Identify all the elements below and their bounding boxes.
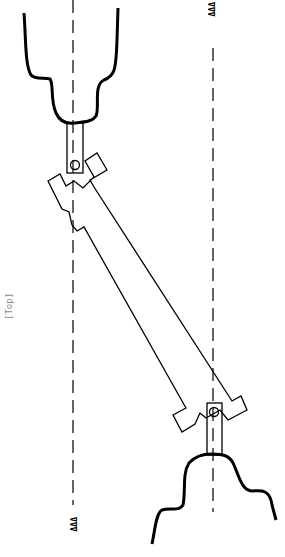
- view-label: [Top]: [4, 293, 14, 320]
- upper-housing-outline: [24, 8, 118, 123]
- upper-pin-icon: [71, 161, 80, 170]
- direction-marks-top: ΔΔΔ: [208, 2, 217, 16]
- lower-housing-outline: [152, 454, 276, 544]
- shaft-outline: [48, 153, 247, 432]
- direction-marks-bottom: ΔΔΔ: [70, 517, 79, 531]
- driveshaft-drawing: [0, 0, 285, 557]
- upper-link: [67, 123, 83, 173]
